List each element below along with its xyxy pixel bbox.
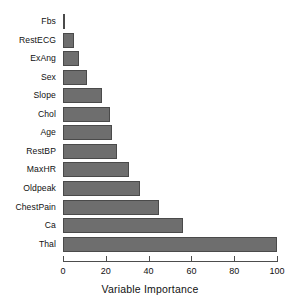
bar-row: Sex xyxy=(0,70,300,85)
plot-area: FbsRestECGExAngSexSlopeCholAgeRestBPMaxH… xyxy=(0,0,300,302)
x-axis-tick-label: 80 xyxy=(229,266,239,276)
bar-ca xyxy=(63,218,183,233)
bar-row: RestECG xyxy=(0,33,300,48)
bar-row: Slope xyxy=(0,88,300,103)
x-axis-line xyxy=(63,261,277,262)
bar-chestpain xyxy=(63,200,159,215)
category-label-maxhr: MaxHR xyxy=(27,162,56,177)
x-axis-tick-label: 100 xyxy=(269,266,284,276)
bar-restecg xyxy=(63,33,74,48)
category-label-chol: Chol xyxy=(38,107,56,122)
bar-row: Thal xyxy=(0,237,300,252)
bar-fbs xyxy=(63,14,65,29)
bar-row: RestBP xyxy=(0,144,300,159)
bar-thal xyxy=(63,237,277,252)
x-axis-tick xyxy=(277,256,278,262)
bar-row: Chol xyxy=(0,107,300,122)
category-label-sex: Sex xyxy=(41,70,56,85)
x-axis-tick xyxy=(234,256,235,262)
category-label-ca: Ca xyxy=(45,218,56,233)
category-label-age: Age xyxy=(40,125,56,140)
x-axis-tick xyxy=(149,256,150,262)
category-label-restecg: RestECG xyxy=(19,33,56,48)
bar-row: Ca xyxy=(0,218,300,233)
bar-maxhr xyxy=(63,162,129,177)
category-label-exang: ExAng xyxy=(30,51,56,66)
bar-oldpeak xyxy=(63,181,140,196)
category-label-chestpain: ChestPain xyxy=(15,200,56,215)
bar-sex xyxy=(63,70,87,85)
variable-importance-chart: FbsRestECGExAngSexSlopeCholAgeRestBPMaxH… xyxy=(0,0,300,302)
bar-row: ExAng xyxy=(0,51,300,66)
bar-slope xyxy=(63,88,102,103)
x-axis-tick-label: 20 xyxy=(101,266,111,276)
bar-row: MaxHR xyxy=(0,162,300,177)
bar-restbp xyxy=(63,144,117,159)
category-label-restbp: RestBP xyxy=(26,144,56,159)
x-axis-tick-label: 0 xyxy=(60,266,65,276)
x-axis-tick xyxy=(63,256,64,262)
bar-row: Fbs xyxy=(0,14,300,29)
x-axis-tick xyxy=(191,256,192,262)
bar-row: Age xyxy=(0,125,300,140)
category-label-fbs: Fbs xyxy=(41,14,56,29)
x-axis-title: Variable Importance xyxy=(0,283,300,295)
category-label-slope: Slope xyxy=(34,88,56,103)
x-axis-tick-label: 60 xyxy=(186,266,196,276)
x-axis-tick-label: 40 xyxy=(144,266,154,276)
bar-chol xyxy=(63,107,110,122)
bar-age xyxy=(63,125,112,140)
bar-row: Oldpeak xyxy=(0,181,300,196)
category-label-thal: Thal xyxy=(39,237,56,252)
x-axis-tick xyxy=(106,256,107,262)
category-label-oldpeak: Oldpeak xyxy=(23,181,56,196)
bar-exang xyxy=(63,51,79,66)
bar-row: ChestPain xyxy=(0,200,300,215)
